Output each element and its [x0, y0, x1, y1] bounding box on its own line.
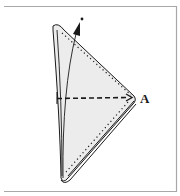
point-a-label: A [140, 91, 149, 107]
napkin-fold-diagram [0, 0, 180, 196]
target-dot [81, 18, 84, 21]
